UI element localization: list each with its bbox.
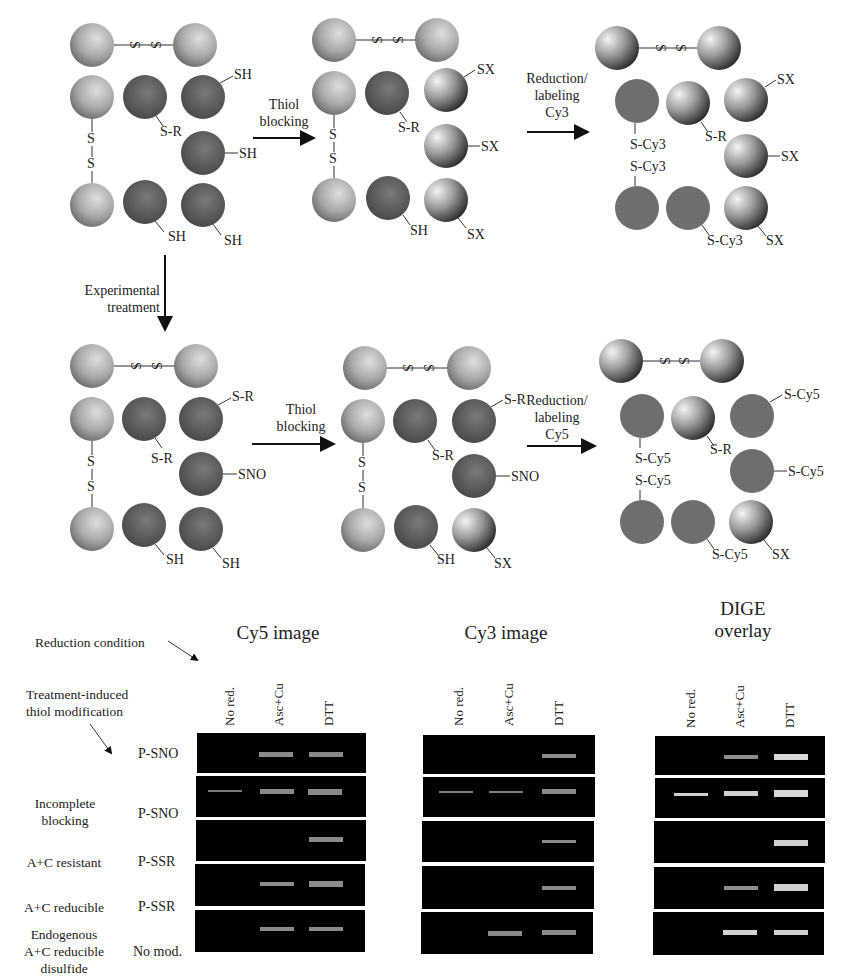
- cluster-top-blocked: [312, 18, 480, 228]
- gel-band: [309, 837, 343, 842]
- row-mod-label: P-SNO: [138, 806, 178, 822]
- step-label-thiol-blocking-bottom: Thiol blocking: [270, 401, 332, 435]
- gel-row: [197, 733, 366, 773]
- lane-label-asc-cu: Asc+Cu: [732, 685, 748, 728]
- step-label-reduction-cy5: Reduction/ labeling Cy5: [522, 392, 592, 443]
- thiol-label: SH: [166, 553, 184, 567]
- disulfide-s: S: [358, 481, 366, 495]
- cy5-label: S-Cy5: [635, 474, 671, 488]
- cy3-label: S-Cy3: [630, 138, 666, 152]
- thiol-label: SH: [410, 224, 428, 238]
- gel-band: [260, 882, 294, 886]
- thiol-label: SH: [224, 234, 242, 248]
- panel-title-dige-overlay: DIGE overlay: [683, 598, 803, 642]
- gel-band: [542, 789, 576, 794]
- disulfide-s: S: [653, 44, 667, 52]
- disulfide-s: S: [87, 157, 95, 171]
- lane-label-dtt: DTT: [782, 703, 798, 728]
- lane-label-dtt: DTT: [321, 701, 337, 726]
- gel-row: [423, 777, 595, 817]
- cy5-label: S-Cy5: [784, 388, 820, 402]
- thiol-label: SH: [234, 68, 252, 82]
- thiol-label: SX: [494, 557, 512, 571]
- row-mod-label: No mod.: [133, 944, 182, 960]
- disulfide-s: S: [128, 362, 142, 370]
- thiol-label: SH: [168, 230, 186, 244]
- gel-row: [195, 910, 365, 952]
- gel-band: [259, 752, 293, 757]
- row-mod-label: P-SSR: [138, 854, 175, 870]
- thiol-label: SH: [222, 557, 240, 571]
- gel-row: [196, 820, 366, 861]
- gel-band: [439, 791, 473, 793]
- gel-band: [724, 886, 758, 890]
- panel-title-cy5: Cy5 image: [218, 622, 338, 644]
- thiol-label: SNO: [238, 468, 266, 482]
- cluster-top-cy3-labeled: [595, 26, 780, 236]
- gel-band: [260, 927, 294, 931]
- gel-row: [423, 735, 595, 774]
- thiol-label: S-R: [710, 443, 732, 457]
- step-label-experimental-treatment: Experimental treatment: [72, 282, 160, 316]
- gel-row: [653, 912, 824, 955]
- lane-label-no-red: No red.: [222, 687, 238, 726]
- step-label-reduction-cy3: Reduction/ labeling Cy3: [522, 70, 592, 121]
- gel-band: [260, 789, 294, 794]
- gel-band: [309, 881, 343, 887]
- thiol-label: SX: [477, 63, 495, 77]
- disulfide-s: S: [358, 456, 366, 470]
- gel-band: [542, 754, 576, 758]
- cluster-bottom-blocked: [341, 346, 510, 558]
- panel-title-cy3: Cy3 image: [446, 622, 566, 644]
- thiol-label: SX: [467, 228, 485, 242]
- cluster-top-initial: [70, 23, 238, 235]
- disulfide-s: S: [369, 36, 383, 44]
- cluster-bottom-cy5-labeled: [599, 339, 787, 550]
- disulfide-s: S: [421, 364, 435, 372]
- disulfide-s: S: [676, 357, 690, 365]
- gel-row: [655, 778, 825, 818]
- gel-band: [309, 752, 343, 757]
- thiol-label: S-R: [398, 121, 420, 135]
- cy3-label: S-Cy3: [707, 234, 743, 248]
- cy3-label: S-Cy3: [630, 160, 666, 174]
- gel-band: [724, 791, 758, 796]
- thiol-label: SNO: [511, 470, 539, 484]
- gel-row: [196, 776, 366, 817]
- gel-band: [488, 931, 522, 936]
- gel-row: [421, 912, 593, 954]
- row-condition-label: A+C resistant: [14, 854, 114, 871]
- disulfide-s: S: [657, 357, 671, 365]
- gel-row: [654, 821, 825, 863]
- row-condition-label: A+C reducible: [14, 899, 114, 916]
- gel-band: [774, 930, 808, 935]
- cy5-label: S-Cy5: [788, 465, 824, 479]
- annotation-reduction-condition: Reduction condition: [35, 634, 145, 651]
- gel-band: [308, 789, 342, 795]
- gel-band: [774, 754, 808, 760]
- thiol-label: SH: [239, 147, 257, 161]
- thiol-label: SX: [766, 234, 784, 248]
- gel-row: [654, 867, 824, 909]
- disulfide-s: S: [329, 152, 337, 166]
- disulfide-s: S: [148, 41, 162, 49]
- gel-band: [774, 790, 808, 797]
- gel-row: [655, 736, 825, 775]
- step-label-thiol-blocking: Thiol blocking: [253, 96, 315, 130]
- lane-label-dtt: DTT: [551, 701, 567, 726]
- gel-row: [422, 821, 594, 862]
- arrow-reduction-condition: [168, 641, 197, 660]
- disulfide-s: S: [87, 455, 95, 469]
- thiol-label: S-R: [432, 449, 454, 463]
- gel-band: [774, 840, 808, 846]
- lane-label-no-red: No red.: [683, 689, 699, 728]
- gel-row: [195, 864, 365, 906]
- gel-band: [774, 884, 808, 891]
- thiol-label: SH: [437, 553, 455, 567]
- disulfide-s: S: [329, 128, 337, 142]
- gel-band: [542, 930, 576, 935]
- gel-band: [674, 793, 708, 796]
- arrow-treatment-induced: [90, 724, 111, 753]
- row-condition-label: Endogenous A+C reducible disulfide: [12, 926, 116, 977]
- disulfide-s: S: [390, 36, 404, 44]
